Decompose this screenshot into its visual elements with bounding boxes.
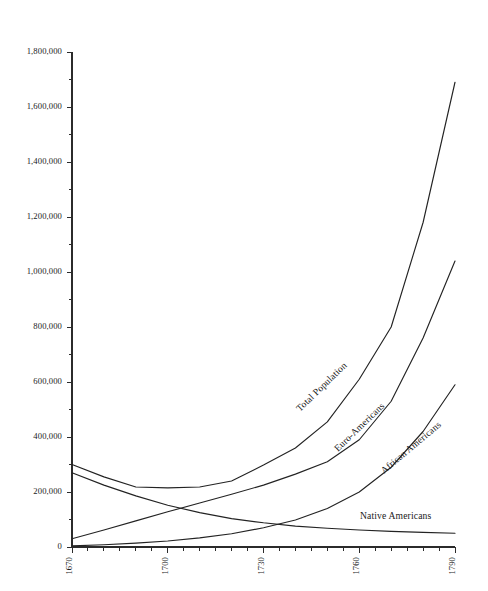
x-tick-label: 1790 — [447, 557, 457, 575]
series-label-native-americans: Native Americans — [360, 510, 432, 521]
y-axis: 0200,000400,000600,000800,0001,000,0001,… — [27, 46, 73, 551]
y-tick-label: 1,600,000 — [27, 101, 62, 111]
x-tick-label: 1700 — [160, 557, 170, 575]
x-axis: 16701700173017601790 — [64, 547, 457, 575]
series-labels: Total PopulationEuro-AmericansAfrican Am… — [294, 360, 443, 521]
x-tick-label: 1670 — [64, 557, 74, 575]
series-lines — [72, 82, 455, 546]
y-tick-label: 400,000 — [33, 431, 62, 441]
series-line-total-population — [72, 82, 455, 488]
y-tick-label: 0 — [58, 541, 62, 551]
series-label-african-americans: African Americans — [378, 419, 443, 476]
series-line-euro-americans — [72, 261, 455, 539]
chart-canvas: 0200,000400,000600,000800,0001,000,0001,… — [0, 0, 488, 591]
y-tick-label: 1,000,000 — [27, 266, 62, 276]
x-tick-label: 1730 — [256, 557, 266, 575]
series-label-total-population: Total Population — [294, 360, 349, 414]
x-tick-label: 1760 — [351, 557, 361, 575]
population-line-chart: 0200,000400,000600,000800,0001,000,0001,… — [0, 0, 488, 591]
y-tick-label: 200,000 — [33, 486, 62, 496]
y-tick-label: 600,000 — [33, 376, 62, 386]
y-tick-label: 1,400,000 — [27, 156, 62, 166]
y-tick-label: 1,200,000 — [27, 211, 62, 221]
y-tick-label: 1,800,000 — [27, 46, 62, 56]
series-label-euro-americans: Euro-Americans — [332, 400, 387, 453]
y-tick-label: 800,000 — [33, 321, 62, 331]
series-line-native-americans — [72, 473, 455, 534]
